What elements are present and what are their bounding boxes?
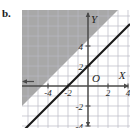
origin-label: O [92,72,100,84]
x-tick-label-4: 4 [126,88,130,98]
x-tick-label-neg4: -4 [44,88,52,98]
y-tick-label-4: 4 [79,42,84,52]
coordinate-plane: 4 2 -2 -4 -4 -2 2 4 Y X O [22,10,130,128]
x-axis-label: X [118,69,127,81]
graph-figure: b. [0,0,137,130]
part-label: b. [2,8,11,19]
y-tick-label-2: 2 [79,62,84,72]
x-tick-label-2: 2 [106,88,111,98]
y-tick-label-neg4: -4 [76,122,84,129]
coordinate-plane-svg: 4 2 -2 -4 -4 -2 2 4 Y X O [22,10,130,128]
y-tick-label-neg2: -2 [76,102,84,112]
x-tick-label-neg2: -2 [64,88,72,98]
